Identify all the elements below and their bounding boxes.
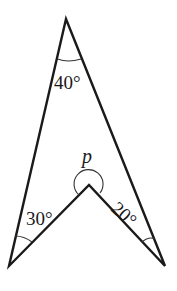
apex-angle-label: 40° [54,72,81,93]
right-angle-label: 20° [107,197,141,230]
right-angle-arc [142,238,155,242]
reflex-angle-arc [74,170,103,195]
apex-angle-arc [58,59,82,61]
left-angle-arc [15,236,32,242]
reflex-angle-label: p [80,145,92,168]
arrowhead-diagram: 40° 30° 20° p [0,0,177,291]
left-angle-label: 30° [26,208,53,229]
